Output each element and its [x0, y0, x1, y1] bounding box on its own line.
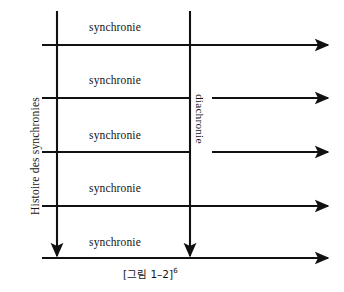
row-label-synchronie-3: synchronie	[89, 130, 141, 142]
row-label-synchronie-5: synchronie	[89, 237, 141, 249]
synchronie-axis-group	[42, 45, 328, 258]
figure-caption: [그림 1–2]6	[123, 268, 178, 279]
row-label-synchronie-4: synchronie	[89, 183, 141, 195]
figure-caption-text: [그림 1–2]	[123, 268, 173, 280]
axis-label-histoire: Histoire des synchronies	[30, 97, 42, 215]
figure-caption-footnote: 6	[173, 267, 177, 275]
axis-label-diachronie: diachronie	[194, 94, 205, 144]
row-label-synchronie-2: synchronie	[89, 75, 141, 87]
row-label-synchronie-1: synchronie	[89, 22, 141, 34]
diagram-canvas	[0, 0, 344, 292]
figure-diagram: Histoire des synchronies diachronie sync…	[0, 0, 344, 292]
